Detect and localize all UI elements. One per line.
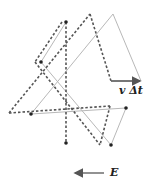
vertex-dot xyxy=(29,112,33,116)
dashed-edge xyxy=(90,14,111,81)
vertex-dot xyxy=(109,143,113,147)
velocity-displacement-label: v Δt xyxy=(119,84,143,97)
dashed-edge xyxy=(35,62,100,145)
shifted-figure xyxy=(9,14,111,145)
vertex-dot xyxy=(124,106,128,110)
vertex-dot xyxy=(39,60,43,64)
vertex-dot xyxy=(64,141,68,145)
dashed-edge xyxy=(9,14,90,113)
solid-edge xyxy=(41,22,66,62)
solid-edge xyxy=(113,14,141,81)
solid-edge xyxy=(111,108,126,145)
vertex-dots xyxy=(29,20,128,147)
solid-edge xyxy=(41,62,111,145)
dashed-edge xyxy=(35,22,62,62)
original-figure xyxy=(31,14,141,145)
vertex-dot xyxy=(64,20,68,24)
dashed-edge xyxy=(100,106,110,145)
field-label: E xyxy=(110,166,118,179)
